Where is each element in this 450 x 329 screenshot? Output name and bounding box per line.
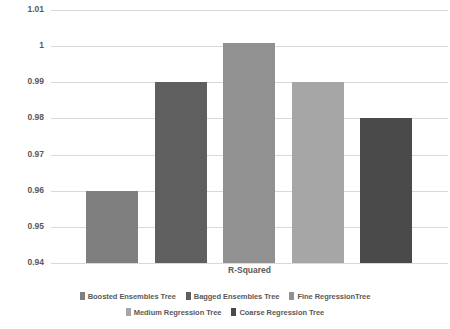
y-axis-tick-label: 0.98: [0, 112, 44, 122]
bar: [86, 191, 138, 263]
bar-chart: 1.0110.990.980.970.960.950.94 R-Squared …: [0, 0, 450, 329]
y-axis-tick-label: 0.99: [0, 76, 44, 86]
legend-label: Bagged Ensembles Tree: [194, 292, 280, 301]
bar: [155, 82, 207, 263]
legend-label: Coarse Regression Tree: [239, 308, 324, 317]
bar: [360, 118, 412, 263]
legend-item[interactable]: Fine RegressionTree: [289, 292, 370, 301]
x-axis-category-label: R-Squared: [51, 265, 448, 275]
y-axis-tick-label: 0.95: [0, 221, 44, 231]
legend-row: Boosted Ensembles TreeBagged Ensembles T…: [0, 288, 450, 304]
gridline: [51, 263, 448, 264]
legend-item[interactable]: Bagged Ensembles Tree: [186, 292, 280, 301]
legend-swatch-icon: [186, 292, 191, 300]
bar: [292, 82, 344, 263]
legend-row: Medium Regression TreeCoarse Regression …: [0, 304, 450, 320]
legend-label: Medium Regression Tree: [134, 308, 222, 317]
legend-swatch-icon: [80, 292, 85, 300]
legend-label: Fine RegressionTree: [297, 292, 370, 301]
legend-item[interactable]: Boosted Ensembles Tree: [80, 292, 176, 301]
chart-bars: [51, 10, 448, 263]
legend-item[interactable]: Coarse Regression Tree: [231, 308, 324, 317]
bar: [223, 43, 275, 263]
y-axis-tick-label: 1.01: [0, 4, 44, 14]
legend-swatch-icon: [231, 308, 236, 316]
y-axis-tick-label: 0.94: [0, 257, 44, 267]
legend-label: Boosted Ensembles Tree: [88, 292, 176, 301]
legend-swatch-icon: [289, 292, 294, 300]
chart-legend: Boosted Ensembles TreeBagged Ensembles T…: [0, 288, 450, 320]
legend-swatch-icon: [126, 308, 131, 316]
y-axis-tick-label: 0.97: [0, 149, 44, 159]
legend-item[interactable]: Medium Regression Tree: [126, 308, 222, 317]
y-axis-tick-label: 0.96: [0, 185, 44, 195]
y-axis-tick-label: 1: [0, 40, 44, 50]
